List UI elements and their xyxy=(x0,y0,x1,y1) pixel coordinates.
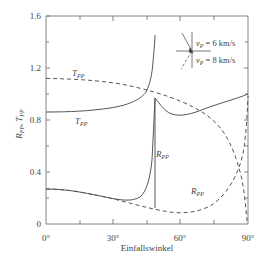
label-t-pp-solid: TPP xyxy=(75,116,88,127)
y-tick-labels: 1.6 1.2 0.8 0.4 0 xyxy=(30,11,42,229)
label-t-pp-dashed: TPP xyxy=(72,68,85,79)
x-tick-0: 0° xyxy=(42,233,51,243)
legend-entry-8kms: vP = 8 km/s xyxy=(196,55,235,66)
x-tick-90: 90° xyxy=(242,233,255,243)
label-r-pp-dashed: RPP xyxy=(190,186,204,197)
x-tick-30: 30° xyxy=(107,233,120,243)
svg-text:RPP,TPP: RPP,TPP xyxy=(14,109,25,140)
curve-t-pp-dashed xyxy=(46,78,247,221)
y-tick-0.8: 0.8 xyxy=(30,115,42,125)
y-tick-1.2: 1.2 xyxy=(30,63,41,73)
y-tick-0: 0 xyxy=(37,219,42,229)
x-axis-title: Einfallswinkel xyxy=(121,243,174,253)
y-tick-1.6: 1.6 xyxy=(30,11,42,21)
y-axis-title: RPP,TPP xyxy=(14,109,25,140)
chart: 1.6 1.2 0.8 0.4 0 0° 30° 60° 90° Einfall… xyxy=(0,0,264,266)
curve-r-pp-solid xyxy=(46,98,155,200)
legend: vP = 6 km/s vP = 8 km/s xyxy=(176,32,235,69)
x-tick-labels: 0° 30° 60° 90° xyxy=(42,233,255,243)
curve-r-pp-dashed xyxy=(46,96,248,213)
curve-t-pp-solid xyxy=(46,35,155,112)
y-tick-0.4: 0.4 xyxy=(30,167,42,177)
x-tick-60: 60° xyxy=(174,233,187,243)
label-r-pp-solid: RPP xyxy=(155,149,169,160)
legend-entry-6kms: vP = 6 km/s xyxy=(196,38,235,49)
